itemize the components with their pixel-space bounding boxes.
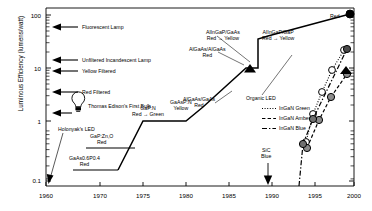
annotation-holonyak-led: Holonyak's LED (58, 126, 95, 132)
annotation-algaas-algaas-red: AlGaAs/AlGaAs Red (189, 46, 226, 58)
annotation-unfiltered-incandescent: Unfiltered Incandescent Lamp (82, 57, 151, 63)
legend-label-ingan-blue: InGaN Blue (279, 125, 306, 131)
annotation-fluorescent-lamp: Fluorescent Lamp (82, 24, 124, 30)
series-ingan-green (306, 50, 344, 142)
legend-label-ingan-amber: InGaN Amber (279, 115, 310, 121)
annotation-gapzno-red: GaP:Zn,O Red (90, 133, 113, 145)
annotation-alingap-gaas: AlInGaP/GaAs Red → Yellow (206, 29, 240, 41)
annotation-organic-led: Organic LED (246, 95, 276, 101)
annotation-red-filtered: Red Filtered (82, 89, 110, 95)
sic-blue-arrowhead (264, 176, 272, 186)
reference-arrow-heads (52, 24, 61, 117)
amber-arrow-marker (340, 66, 352, 74)
legend-line-samples (262, 109, 276, 129)
annotation-gapn-red-green: GaP:N Red → Green (132, 105, 164, 117)
chart-container: Luminous Efficiency (lumens/watt) 100 10… (0, 0, 372, 211)
annotation-alingap-gap: AlInGaP/GaP Red → Yellow (262, 29, 294, 41)
holonyak-arrow (51, 133, 64, 177)
series-ingan-amber-markers (303, 70, 350, 151)
holonyak-arrowhead (47, 174, 54, 184)
annotation-gaasp-red: GaAs0.6P0.4 Red (69, 155, 100, 167)
annotation-sic-blue: SiC Blue (261, 147, 271, 159)
legend-label-ingan-green: InGaN Green (279, 105, 310, 111)
annotation-yellow-filtered: Yellow Filtered (82, 68, 116, 74)
annotation-red-top: Red (330, 13, 340, 19)
annotation-algaas-gaas-red: AlGaAs/GaAs Red (183, 96, 215, 108)
series-red-markers (346, 10, 354, 18)
